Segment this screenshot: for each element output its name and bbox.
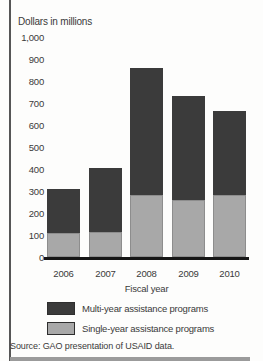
gao-bar-chart-figure: Dollars in millions 1,000900800700600500… (0, 0, 263, 361)
bar-2007-multi-year-segment (89, 168, 122, 232)
bar-2008-multi-year-segment (130, 68, 163, 196)
legend-label-single-year: Single-year assistance programs (82, 322, 214, 335)
y-tick-label: 300 (2, 187, 44, 197)
figure-bottom-rule (10, 357, 250, 361)
source-note: Source: GAO presentation of USAID data. (10, 341, 174, 351)
y-tick-label: 100 (2, 231, 44, 241)
y-tick-label: 700 (2, 99, 44, 109)
x-tick-label-2006: 2006 (42, 268, 85, 279)
bar-2006-multi-year-segment (47, 189, 80, 233)
y-tick-label: 600 (2, 121, 44, 131)
y-tick-label: 0 (2, 253, 44, 263)
x-tick-label-2007: 2007 (84, 268, 127, 279)
x-tick-label-2008: 2008 (125, 268, 168, 279)
legend-item-single-year: Single-year assistance programs (47, 321, 214, 335)
legend-label-multi-year: Multi-year assistance programs (82, 302, 208, 315)
y-tick-label: 200 (2, 209, 44, 219)
bar-2009-multi-year-segment (172, 96, 205, 199)
bar-2010-multi-year-segment (213, 111, 246, 196)
bar-2009-single-year-segment (172, 200, 205, 257)
x-axis-line (44, 257, 249, 260)
y-tick-label: 1,000 (2, 33, 44, 43)
x-tick-label-2009: 2009 (167, 268, 210, 279)
y-axis-title: Dollars in millions (18, 16, 92, 27)
legend-swatch-multi-year (47, 302, 75, 315)
bar-2010-single-year-segment (213, 195, 246, 257)
legend-swatch-single-year (47, 322, 75, 335)
legend-item-multi-year: Multi-year assistance programs (47, 301, 208, 315)
x-axis-title: Fiscal year (44, 283, 249, 294)
bar-2006-single-year-segment (47, 233, 80, 257)
y-tick-label: 500 (2, 143, 44, 153)
bar-2008-single-year-segment (130, 195, 163, 257)
y-tick-label: 400 (2, 165, 44, 175)
bar-2007-single-year-segment (89, 232, 122, 257)
x-tick-label-2010: 2010 (208, 268, 251, 279)
y-tick-label: 800 (2, 77, 44, 87)
y-tick-label: 900 (2, 55, 44, 65)
